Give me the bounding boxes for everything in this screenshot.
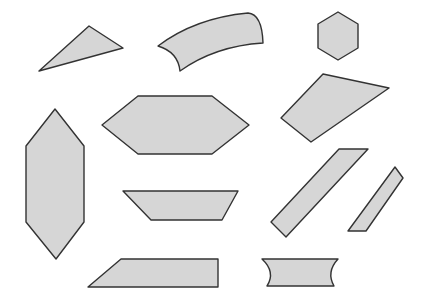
bottom-trapezoid-shape — [88, 259, 218, 287]
small-hexagon-shape — [318, 12, 358, 60]
concave-rectangle-shape — [262, 259, 338, 286]
shapes-canvas — [0, 0, 425, 304]
thin-parallelogram-shape — [348, 167, 403, 231]
trapezoid-shape — [123, 191, 238, 220]
curved-band-shape — [158, 13, 263, 71]
wide-hexagon-shape — [102, 96, 249, 154]
triangle-shape — [39, 26, 123, 71]
shape-layer — [26, 12, 403, 287]
tall-hexagon-shape — [26, 109, 84, 259]
quadrilateral-shape — [281, 74, 389, 142]
